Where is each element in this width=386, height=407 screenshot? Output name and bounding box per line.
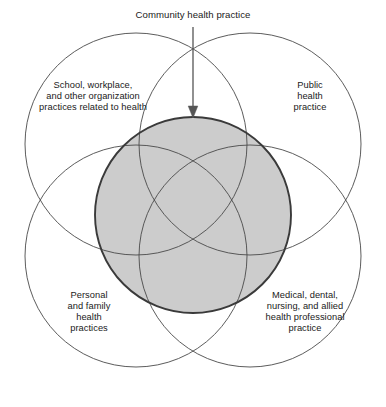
- venn-diagram: Community health practice School, workpl…: [0, 0, 386, 407]
- central-shaded-circle: [95, 117, 291, 313]
- venn-diagram-canvas: [0, 0, 386, 407]
